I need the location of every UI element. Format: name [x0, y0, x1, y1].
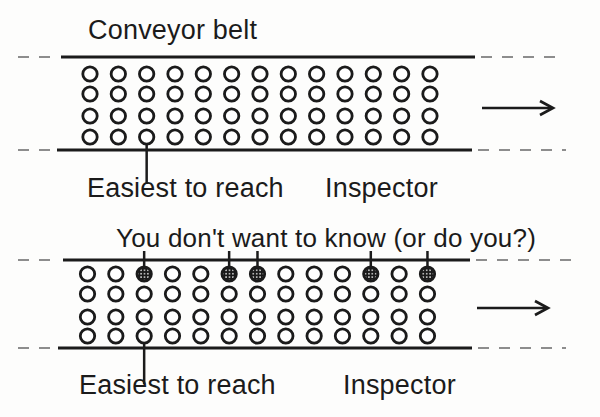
defect-item-circle — [364, 267, 378, 281]
item-circle — [423, 130, 437, 144]
item-circle — [307, 287, 321, 301]
item-circle — [420, 329, 434, 343]
item-circle — [224, 87, 238, 101]
item-circle — [338, 67, 352, 81]
item-circle — [394, 87, 408, 101]
item-circle — [307, 329, 321, 343]
conveyor-inspection-diagram: Conveyor belt Easiest to reach Inspector… — [0, 0, 600, 417]
top-easiest-to-reach-label: Easiest to reach — [87, 175, 284, 202]
item-circle — [109, 267, 123, 281]
item-circle — [194, 287, 208, 301]
item-circle — [194, 329, 208, 343]
item-circle — [338, 87, 352, 101]
item-circle — [137, 310, 151, 324]
item-circle — [168, 67, 182, 81]
item-circle — [366, 67, 380, 81]
item-circle — [80, 329, 94, 343]
defect-item-circle — [222, 267, 236, 281]
item-circle — [281, 109, 295, 123]
item-circle — [137, 287, 151, 301]
item-circle — [307, 267, 321, 281]
item-circle — [279, 287, 293, 301]
bottom-inspector-label: Inspector — [343, 372, 456, 399]
item-circle — [420, 287, 434, 301]
item-circle — [165, 329, 179, 343]
item-circle — [338, 130, 352, 144]
top-inspector-label: Inspector — [325, 175, 438, 202]
item-circle — [423, 109, 437, 123]
item-circle — [224, 109, 238, 123]
item-circle — [392, 329, 406, 343]
item-circle — [165, 267, 179, 281]
item-circle — [309, 130, 323, 144]
item-circle — [394, 130, 408, 144]
item-circle — [309, 87, 323, 101]
item-circle — [196, 130, 210, 144]
item-circle — [111, 87, 125, 101]
defect-item-circle — [250, 267, 264, 281]
item-circle — [224, 130, 238, 144]
item-circle — [109, 310, 123, 324]
item-circle — [423, 87, 437, 101]
item-circle — [137, 329, 151, 343]
item-circle — [109, 329, 123, 343]
item-circle — [196, 109, 210, 123]
item-circle — [423, 67, 437, 81]
item-circle — [366, 130, 380, 144]
item-circle — [165, 287, 179, 301]
item-circle — [194, 267, 208, 281]
item-circle — [250, 287, 264, 301]
item-circle — [279, 310, 293, 324]
item-circle — [335, 267, 349, 281]
item-circle — [281, 67, 295, 81]
item-circle — [279, 329, 293, 343]
item-circle — [279, 267, 293, 281]
item-circle — [309, 67, 323, 81]
item-circle — [394, 109, 408, 123]
item-circle — [253, 67, 267, 81]
item-circle — [83, 130, 97, 144]
item-circle — [222, 329, 236, 343]
item-circle — [80, 287, 94, 301]
item-circle — [165, 310, 179, 324]
item-circle — [335, 287, 349, 301]
item-circle — [250, 310, 264, 324]
item-circle — [139, 109, 153, 123]
item-circle — [222, 310, 236, 324]
item-circle — [366, 87, 380, 101]
item-circle — [111, 67, 125, 81]
top-belt-title: Conveyor belt — [88, 17, 257, 44]
item-circle — [420, 310, 434, 324]
item-circle — [139, 87, 153, 101]
item-circle — [366, 109, 380, 123]
item-circle — [392, 267, 406, 281]
item-circle — [338, 109, 352, 123]
item-circle — [196, 87, 210, 101]
defect-item-circle — [420, 267, 434, 281]
bottom-belt-title: You don't want to know (or do you?) — [116, 225, 536, 251]
item-circle — [364, 287, 378, 301]
item-circle — [80, 310, 94, 324]
item-circle — [168, 87, 182, 101]
item-circle — [139, 67, 153, 81]
item-circle — [335, 329, 349, 343]
item-circle — [196, 67, 210, 81]
item-circle — [307, 310, 321, 324]
item-circle — [83, 67, 97, 81]
item-circle — [392, 310, 406, 324]
bottom-easiest-to-reach-label: Easiest to reach — [79, 372, 276, 399]
defect-item-circle — [137, 267, 151, 281]
item-circle — [335, 310, 349, 324]
item-circle — [281, 130, 295, 144]
item-circle — [309, 109, 323, 123]
item-circle — [168, 130, 182, 144]
item-circle — [139, 130, 153, 144]
item-circle — [168, 109, 182, 123]
item-circle — [111, 130, 125, 144]
diagram-art — [0, 0, 600, 417]
item-circle — [250, 329, 264, 343]
item-circle — [392, 287, 406, 301]
item-circle — [194, 310, 208, 324]
item-circle — [253, 87, 267, 101]
item-circle — [109, 287, 123, 301]
